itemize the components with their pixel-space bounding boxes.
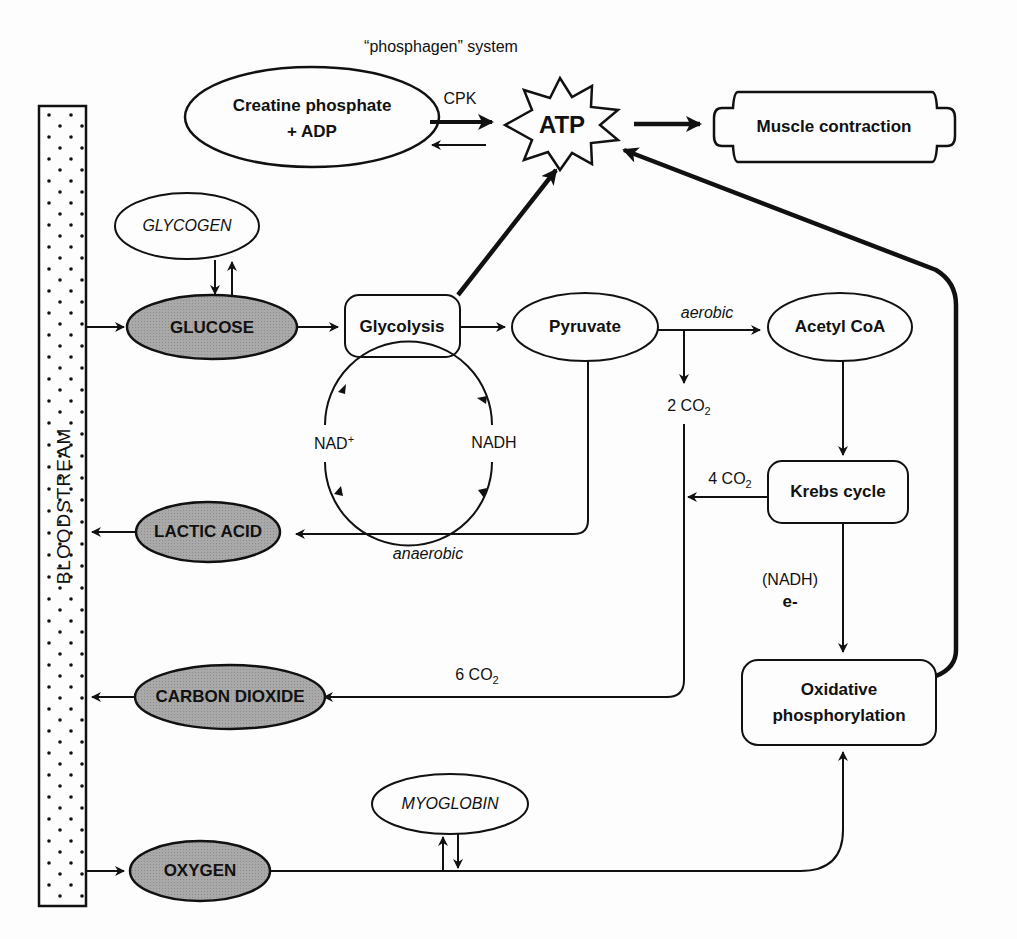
creatine-label-1: Creatine phosphate <box>233 96 392 116</box>
oxphos-label-2: phosphorylation <box>772 706 905 726</box>
oxidative-phosphorylation-node <box>742 660 936 745</box>
nadh-paren-label: (NADH) <box>762 571 818 589</box>
krebs-cycle-label: Krebs cycle <box>790 482 885 502</box>
myoglobin-label: MYOGLOBIN <box>402 795 499 813</box>
two-co2-label: 2 CO2 <box>667 397 710 418</box>
creatine-label-2: + ADP <box>287 122 337 142</box>
bloodstream-label: BLOODSTREAM <box>53 428 75 585</box>
nadh-label: NADH <box>471 434 516 452</box>
four-co2-label: 4 CO2 <box>708 470 751 491</box>
oxphos-label-1: Oxidative <box>801 680 878 700</box>
muscle-contraction-label: Muscle contraction <box>757 117 912 137</box>
metabolism-diagram: “phosphagen” system BLOODSTREAM Creatine… <box>0 0 1017 939</box>
phosphagen-system-label: “phosphagen” system <box>364 38 518 56</box>
creatine-phosphate-node <box>185 67 439 167</box>
glucose-label: GLUCOSE <box>170 318 254 338</box>
acetyl-coa-label: Acetyl CoA <box>795 317 886 337</box>
anaerobic-label: anaerobic <box>393 545 463 563</box>
atp-label: ATP <box>539 111 585 139</box>
pyruvate-label: Pyruvate <box>549 317 621 337</box>
oxygen-label: OXYGEN <box>164 861 237 881</box>
cpk-label: CPK <box>444 90 477 108</box>
glycolysis-label: Glycolysis <box>359 317 444 337</box>
glycogen-label: GLYCOGEN <box>142 217 231 235</box>
aerobic-label: aerobic <box>681 304 733 322</box>
nad-plus-label: NAD+ <box>314 433 354 454</box>
six-co2-label: 6 CO2 <box>455 666 498 687</box>
lactic-acid-label: LACTIC ACID <box>154 522 262 542</box>
electron-label: e- <box>782 592 797 612</box>
diagram-graphics <box>0 0 1017 939</box>
carbon-dioxide-label: CARBON DIOXIDE <box>155 687 304 707</box>
